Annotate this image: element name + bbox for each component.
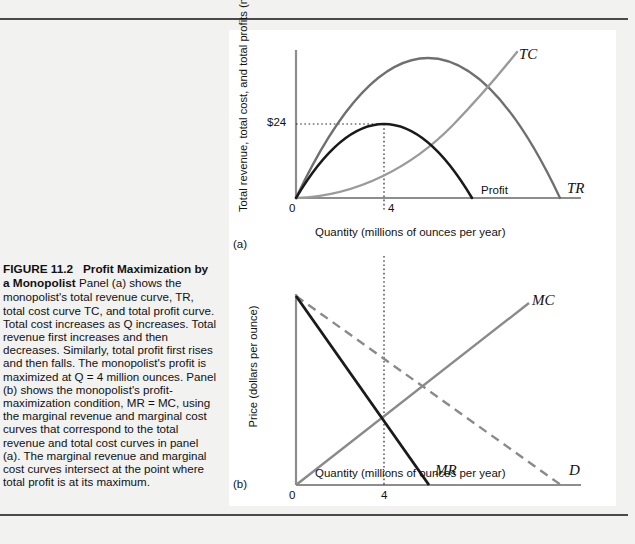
panel-a-profit-curve	[296, 124, 472, 198]
figure-number: FIGURE 11.2	[3, 262, 73, 276]
panel-b-tag: (b)	[233, 478, 247, 490]
panel-a-origin-label: 0	[289, 202, 295, 214]
panel-b-origin-label: 0	[289, 489, 295, 501]
panel-a-profit-label: Profit	[481, 184, 508, 196]
panel-b-x-tick-4: 4	[381, 489, 387, 501]
horizontal-rule-bottom	[0, 514, 628, 516]
panel-a-tc-curve	[296, 52, 517, 198]
figure-caption: FIGURE 11.2 Profit Maximization by a Mon…	[3, 262, 217, 488]
panel-a-x-tick-4: 4	[388, 202, 394, 214]
panel-a: Total revenue, total cost, and total pro…	[229, 30, 616, 268]
panel-b-mc-line	[296, 303, 529, 485]
panel-a-tc-label: TC	[519, 46, 537, 63]
panel-a-tr-curve	[296, 58, 560, 198]
figure-panel-box: Total revenue, total cost, and total pro…	[229, 30, 616, 506]
figure-caption-body: Panel (a) shows the monopolist's total r…	[3, 276, 216, 488]
panel-a-tr-label: TR	[567, 180, 585, 197]
horizontal-rule-top	[0, 18, 628, 20]
panel-b-demand-line	[296, 296, 561, 485]
panel-a-plot	[229, 30, 616, 245]
panel-a-tag: (a)	[233, 238, 247, 250]
panel-b-demand-label: D	[569, 462, 580, 479]
panel-b-y-axis-label: Price (dollars per ounce)	[247, 279, 260, 454]
panel-a-y-tick-24: $24	[267, 116, 286, 128]
panel-b-mr-line	[296, 296, 429, 485]
panel-b: Price (dollars per ounce) MC MR D 0 4 Qu…	[229, 256, 616, 506]
panel-b-plot	[229, 256, 616, 486]
panel-a-y-axis-label: Total revenue, total cost, and total pro…	[237, 42, 250, 212]
panel-a-x-axis-label: Quantity (millions of ounces per year)	[315, 226, 505, 238]
panel-b-x-axis-label: Quantity (millions of ounces per year)	[315, 467, 505, 479]
panel-b-mc-label: MC	[532, 292, 555, 309]
